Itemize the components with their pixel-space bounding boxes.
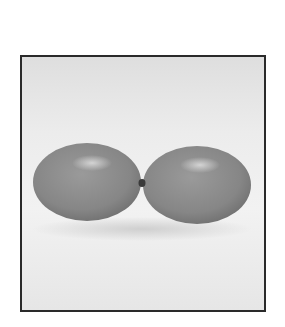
right-balloon bbox=[143, 146, 251, 224]
left-balloon bbox=[33, 143, 141, 221]
balloon-knot bbox=[139, 179, 146, 187]
balloons-illustration bbox=[22, 57, 264, 310]
photo-frame bbox=[20, 55, 266, 312]
